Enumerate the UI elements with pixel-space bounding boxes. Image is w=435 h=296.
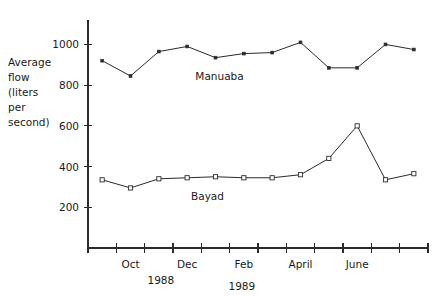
- series-label-bayad: Bayad: [191, 190, 224, 202]
- data-point-bayad-11: [412, 172, 416, 176]
- y-axis-title-line-3: per: [8, 101, 26, 113]
- y-axis-title-line-2: (liters: [8, 86, 38, 98]
- x-tick-label-oct: Oct: [121, 258, 139, 270]
- data-point-bayad-9: [355, 124, 359, 128]
- x-tick-label-feb: Feb: [235, 258, 254, 270]
- y-tick-label: 200: [59, 201, 79, 213]
- y-axis-title-line-4: second): [8, 116, 50, 128]
- x-tick-label-april: April: [289, 258, 313, 270]
- data-point-bayad-8: [327, 156, 331, 160]
- y-axis-title-line-0: Average: [8, 56, 51, 68]
- year-label-1988: 1988: [147, 274, 174, 286]
- y-tick-label: 1000: [52, 38, 79, 50]
- data-point-bayad-1: [128, 186, 132, 190]
- data-point-bayad-6: [270, 176, 274, 180]
- series-label-manuaba: Manuaba: [195, 70, 243, 82]
- data-point-bayad-4: [213, 175, 217, 179]
- data-point-bayad-7: [298, 173, 302, 177]
- data-point-bayad-3: [185, 176, 189, 180]
- data-point-bayad-10: [383, 178, 387, 182]
- data-point-manuaba-0: [101, 59, 104, 62]
- data-point-manuaba-8: [327, 66, 330, 69]
- chart-canvas: 2004006008001000OctDecFebAprilJune198819…: [0, 0, 435, 296]
- data-point-manuaba-2: [157, 50, 160, 53]
- data-point-bayad-2: [157, 177, 161, 181]
- data-point-bayad-5: [242, 176, 246, 180]
- data-point-manuaba-7: [299, 41, 302, 44]
- y-tick-label: 600: [59, 120, 79, 132]
- year-label-1989: 1989: [228, 280, 255, 292]
- series-line-manuaba: [102, 42, 414, 76]
- data-point-manuaba-4: [214, 56, 217, 59]
- data-point-manuaba-9: [356, 66, 359, 69]
- data-point-bayad-0: [100, 178, 104, 182]
- data-point-manuaba-5: [242, 52, 245, 55]
- data-point-manuaba-3: [186, 45, 189, 48]
- y-tick-label: 400: [59, 161, 79, 173]
- y-tick-label: 800: [59, 79, 79, 91]
- x-tick-label-june: June: [345, 258, 369, 270]
- data-point-manuaba-11: [412, 48, 415, 51]
- data-point-manuaba-10: [384, 43, 387, 46]
- y-axis-title-line-1: flow: [8, 71, 30, 83]
- data-point-manuaba-1: [129, 75, 132, 78]
- series-line-bayad: [102, 126, 414, 188]
- x-tick-label-dec: Dec: [177, 258, 198, 270]
- data-point-manuaba-6: [271, 51, 274, 54]
- flow-chart: 2004006008001000OctDecFebAprilJune198819…: [0, 0, 435, 296]
